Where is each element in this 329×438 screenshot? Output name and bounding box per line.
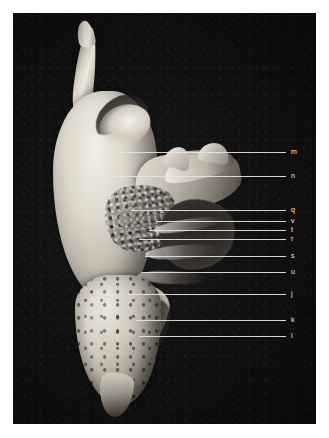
leader-line-u	[141, 272, 286, 273]
specimen-photograph-plate: mnqvtrsujki	[13, 13, 316, 424]
base-tip	[97, 371, 135, 418]
leader-line-k	[136, 320, 286, 321]
leader-line-t	[149, 230, 286, 231]
leader-line-q	[131, 210, 286, 211]
figure-label-i: i	[291, 332, 293, 339]
figure-label-s: s	[291, 252, 295, 259]
leader-line-v	[156, 221, 286, 222]
leader-line-s	[145, 256, 286, 257]
figure-label-m: m	[291, 148, 297, 155]
leader-line-r	[139, 239, 286, 240]
figure-label-j: j	[291, 290, 293, 297]
process-tip	[74, 19, 97, 48]
figure-label-r: r	[291, 235, 293, 242]
figure-label-u: u	[291, 268, 295, 275]
figure-label-v: v	[291, 217, 295, 224]
bone-specimen	[13, 13, 316, 424]
leader-line-n	[112, 176, 286, 177]
leader-line-m	[116, 152, 286, 153]
figure-label-t: t	[291, 226, 293, 233]
leader-line-j	[128, 294, 286, 295]
figure-label-n: n	[291, 172, 295, 179]
figure-label-k: k	[291, 316, 295, 323]
leader-line-i	[139, 336, 286, 337]
figure-page: mnqvtrsujki	[0, 0, 329, 438]
figure-label-q: q	[291, 206, 295, 213]
